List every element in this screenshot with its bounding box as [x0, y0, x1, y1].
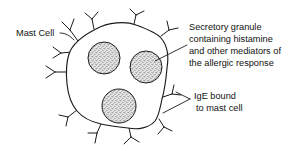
ige-receptor — [161, 21, 178, 36]
ige-receptor — [124, 128, 139, 144]
figure-canvas: Mast Cell Secretory granule containing h… — [0, 0, 298, 151]
ige-leader-line — [176, 92, 190, 99]
label-secretory-granule-line-3: and other mediators of — [189, 46, 281, 56]
ige-receptor — [85, 12, 98, 29]
ige-receptor — [163, 85, 181, 97]
granule-upper-left — [88, 42, 120, 74]
label-secretory-granule-line-2: containing histamine — [189, 34, 273, 44]
ige-receptor — [130, 9, 144, 24]
ige-leader-line-secondary — [163, 99, 190, 113]
label-secretory-granule-line-1: Secretory granule — [189, 22, 262, 32]
label-ige-bound-line-1: IgE bound — [194, 91, 236, 101]
ige-receptor — [158, 119, 172, 134]
label-secretory-granule-line-4: the allergic response — [189, 58, 274, 68]
granule-lower-center — [102, 89, 136, 123]
ige-receptor — [59, 110, 77, 126]
ige-receptor — [46, 66, 67, 78]
mast-cell-leader-line — [60, 33, 74, 40]
ige-receptor — [62, 19, 78, 41]
label-ige-bound-line-2: to mast cell — [196, 103, 242, 113]
ige-receptor — [88, 124, 101, 143]
label-mast-cell: Mast Cell — [16, 28, 54, 38]
mast-cell-diagram: Mast Cell Secretory granule containing h… — [0, 0, 298, 151]
granule-right — [130, 51, 162, 83]
